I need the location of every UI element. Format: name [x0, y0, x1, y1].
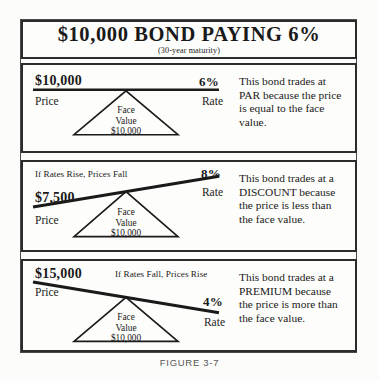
- price-label-par: Price: [35, 96, 59, 108]
- scenario-panel-discount: If Rates Rise, Prices Fall $7,500 Price …: [21, 160, 357, 252]
- seesaw-diagram-par: $10,000 Price 6% Rate Face Value $10,000: [23, 65, 237, 151]
- explanation-par: This bond trades at PAR because the pric…: [239, 75, 347, 129]
- rate-amount-discount: 8%: [201, 167, 221, 180]
- fulcrum-line3-par: $10,000: [111, 126, 141, 137]
- price-label-discount: Price: [35, 215, 59, 227]
- figure-subtitle: (30-year maturity): [158, 47, 220, 55]
- figure-caption: FIGURE 3-7: [0, 357, 379, 368]
- rate-note-premium: If Rates Fall, Prices Rise: [115, 270, 207, 279]
- fulcrum-label-par: Face Value $10,000: [111, 105, 141, 137]
- fulcrum-line3-discount: $10,000: [111, 228, 141, 239]
- figure-page: $10,000 BOND PAYING 6% (30-year maturity…: [0, 0, 379, 380]
- rate-label-premium: Rate: [204, 317, 225, 329]
- seesaw-diagram-premium: $15,000 Price If Rates Fall, Prices Rise…: [23, 261, 237, 350]
- fulcrum-label-premium: Face Value $10,000: [111, 312, 141, 344]
- explanation-premium: This bond trades at a PREMIUM because th…: [239, 271, 347, 325]
- rate-amount-premium: 4%: [203, 295, 223, 308]
- figure-title-box: $10,000 BOND PAYING 6% (30-year maturity…: [21, 20, 357, 59]
- price-amount-par: $10,000: [35, 74, 82, 88]
- rate-label-discount: Rate: [202, 187, 223, 199]
- rate-label-par: Rate: [202, 96, 223, 108]
- fulcrum-line2-premium: Value: [111, 323, 141, 334]
- price-amount-premium: $15,000: [35, 267, 82, 281]
- fulcrum-label-discount: Face Value $10,000: [111, 207, 141, 239]
- fulcrum-line1-premium: Face: [111, 312, 141, 323]
- explanation-discount: This bond trades at a DISCOUNT because t…: [239, 172, 347, 226]
- fulcrum-line2-par: Value: [111, 116, 141, 127]
- rate-amount-par: 6%: [199, 75, 219, 88]
- fulcrum-line1-par: Face: [111, 105, 141, 116]
- scenario-panel-premium: $15,000 Price If Rates Fall, Prices Rise…: [21, 259, 357, 352]
- fulcrum-line3-premium: $10,000: [111, 333, 141, 344]
- fulcrum-line2-discount: Value: [111, 218, 141, 229]
- rate-note-discount: If Rates Rise, Prices Fall: [35, 170, 127, 179]
- price-label-premium: Price: [35, 287, 59, 299]
- figure-title: $10,000 BOND PAYING 6%: [58, 24, 321, 45]
- scenario-panel-par: $10,000 Price 6% Rate Face Value $10,000…: [21, 63, 357, 153]
- seesaw-diagram-discount: If Rates Rise, Prices Fall $7,500 Price …: [23, 162, 237, 250]
- fulcrum-line1-discount: Face: [111, 207, 141, 218]
- price-amount-discount: $7,500: [35, 191, 75, 205]
